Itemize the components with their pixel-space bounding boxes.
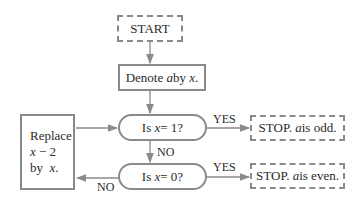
replace-text: . bbox=[55, 160, 58, 175]
yes-label-1: YES bbox=[213, 112, 236, 127]
decision-text: = 0? bbox=[160, 169, 183, 185]
decision-text: Is bbox=[142, 169, 151, 185]
stop-text: is odd. bbox=[302, 120, 337, 136]
start-node: START bbox=[117, 15, 183, 42]
stop-text: is even. bbox=[299, 168, 339, 184]
denote-text: by bbox=[173, 70, 186, 86]
decision-x-equals-0: Is x = 0? bbox=[118, 163, 207, 190]
decision-text: Is bbox=[142, 120, 151, 136]
stop-even-node: STOP. a is even. bbox=[250, 163, 345, 189]
replace-text: − 2 bbox=[36, 144, 56, 159]
replace-line3: by x. bbox=[30, 160, 59, 176]
denote-text: . bbox=[195, 70, 198, 86]
replace-text: by bbox=[30, 160, 46, 175]
replace-line1: Replace bbox=[30, 128, 72, 144]
stop-text: STOP. bbox=[259, 120, 292, 136]
decision-text: = 1? bbox=[160, 120, 183, 136]
yes-label-2: YES bbox=[213, 160, 236, 175]
replace-line2: x − 2 bbox=[30, 144, 56, 160]
start-label: START bbox=[130, 21, 169, 37]
no-label-2: NO bbox=[97, 180, 114, 195]
no-label-1: NO bbox=[157, 145, 174, 160]
replace-node: Replace x − 2 by x. bbox=[20, 114, 75, 190]
denote-text: Denote bbox=[126, 70, 164, 86]
stop-text: STOP. bbox=[256, 168, 289, 184]
stop-odd-node: STOP. a is odd. bbox=[250, 115, 345, 141]
decision-x-equals-1: Is x = 1? bbox=[118, 114, 207, 141]
denote-node: Denote a by x. bbox=[118, 64, 206, 91]
